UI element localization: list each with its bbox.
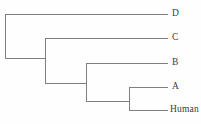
tip-label-c: C [172, 33, 179, 43]
tip-label-a: A [172, 82, 179, 92]
cladogram-figure: D C B A Human [0, 0, 201, 124]
tip-label-human: Human [170, 105, 199, 115]
tip-label-b: B [172, 58, 179, 68]
tip-label-d: D [172, 9, 179, 19]
